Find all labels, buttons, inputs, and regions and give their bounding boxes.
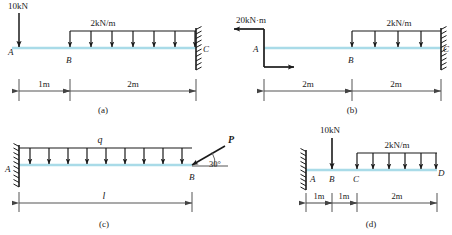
point-load-label-a: 10kN [8, 1, 29, 11]
node-label-b-B: B [348, 55, 354, 65]
moment-label-b: 20kN·m [236, 15, 266, 25]
node-label-a-A: A [7, 47, 14, 57]
panel-c: q P 30° A B l (c) [4, 134, 235, 229]
node-label-c-A: A [4, 164, 11, 174]
distributed-load-a [70, 31, 196, 47]
point-load-label-d: 10kN [320, 125, 341, 135]
angle-label-c: 30° [209, 159, 221, 169]
node-label-b-A: A [252, 44, 259, 54]
fixed-support-a [196, 27, 202, 71]
dimension-label-a-2: 2m [127, 79, 139, 89]
distributed-load-label-b: 2kN/m [386, 18, 411, 28]
dimension-label-c-1: l [103, 190, 106, 201]
panel-d: 10kN 2kN/m A B C D [301, 125, 446, 229]
panel-caption-a: (a) [98, 105, 108, 115]
panel-caption-b: (b) [347, 105, 358, 115]
dimension-group-c [19, 192, 192, 212]
fixed-support-d [301, 149, 307, 191]
dimension-label-d-1: 1m [314, 191, 325, 201]
force-label-c: P [228, 134, 235, 145]
distributed-load-d [357, 153, 437, 169]
panel-caption-c: (c) [99, 219, 109, 229]
node-label-d-B: B [329, 174, 335, 184]
fixed-support-c [14, 144, 20, 188]
node-label-d-D: D [437, 168, 445, 178]
distributed-load-b [352, 31, 441, 47]
node-label-d-C: C [353, 174, 360, 184]
node-label-a-C: C [203, 44, 210, 54]
dimension-group-d [306, 193, 437, 212]
node-label-d-A: A [309, 174, 316, 184]
panel-caption-d: (d) [366, 219, 377, 229]
node-label-b-C: C [443, 44, 450, 54]
panel-b: 20kN·m 2kN/m A B C 2m [234, 15, 450, 115]
figure-root: 10kN 2kN/m A B C [0, 0, 452, 235]
node-label-c-B: B [189, 172, 195, 182]
dimension-label-b-1: 2m [302, 79, 314, 89]
dimension-group-b [264, 79, 441, 101]
distributed-load-label-a: 2kN/m [90, 18, 115, 28]
distributed-load-c [19, 148, 192, 164]
beam-diagrams-svg: 10kN 2kN/m A B C [0, 0, 452, 235]
dimension-label-b-2: 2m [390, 79, 402, 89]
dimension-label-a-1: 1m [38, 79, 50, 89]
distributed-load-label-c: q [98, 134, 103, 145]
dimension-label-d-3: 2m [392, 191, 403, 201]
panel-a: 10kN 2kN/m A B C [7, 1, 210, 115]
dimension-label-d-2: 1m [339, 191, 350, 201]
distributed-load-label-d: 2kN/m [384, 140, 409, 150]
node-label-a-B: B [66, 55, 72, 65]
